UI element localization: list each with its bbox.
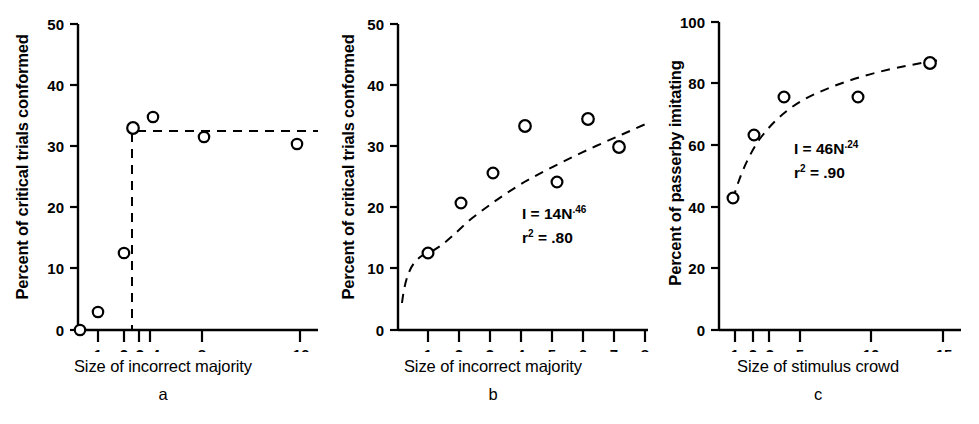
panel-a-point-6	[292, 139, 302, 149]
panel-a-xtick-4: 4	[152, 346, 161, 352]
panel-b-ytick-40: 40	[367, 77, 384, 94]
panel-c: Percent of passerby imitating 100 80 60 …	[653, 0, 979, 424]
panel-c-xtick-15: 15	[936, 346, 953, 352]
panel-b-y-ticklabels: 50 40 30 20 10 0	[367, 16, 384, 339]
panel-b: Percent of critical trials conformed 50 …	[326, 0, 652, 424]
panel-a-xtick-1: 1	[94, 346, 102, 352]
panel-a-xtick-16: 16	[293, 346, 310, 352]
panel-c-y-ticks	[711, 22, 719, 330]
panel-b-xtick-7: 7	[610, 346, 618, 352]
panel-c-xtick-5: 5	[796, 346, 804, 352]
panel-a-point-2	[119, 248, 129, 258]
panel-a-ytick-30: 30	[47, 138, 64, 155]
panel-c-point-3	[779, 92, 790, 103]
panel-b-letter: b	[330, 385, 656, 404]
panel-b-ytick-30: 30	[367, 138, 384, 155]
panel-a: Percent of critical trials conformed 50 …	[0, 0, 326, 424]
panel-b-ytick-0: 0	[376, 322, 384, 339]
panel-b-xtick-3: 3	[486, 346, 494, 352]
panel-c-point-2	[749, 130, 760, 141]
panel-a-ytick-0: 0	[56, 322, 64, 339]
panel-a-ytick-40: 40	[47, 77, 64, 94]
panel-a-xtick-8: 8	[198, 346, 206, 352]
panel-b-ytick-50: 50	[367, 16, 384, 33]
panel-c-letter: c	[655, 385, 979, 404]
panel-c-r-squared: r2 = .90	[794, 163, 845, 181]
panel-b-y-ticks	[390, 24, 398, 330]
panel-b-ytick-10: 10	[367, 260, 384, 277]
panel-c-xtick-10: 10	[863, 346, 880, 352]
panel-b-point-1	[423, 248, 434, 259]
panel-a-x-ticklabels: 1 2 3 4 8 16	[94, 346, 310, 352]
panel-b-point-7	[613, 141, 625, 153]
panel-c-xtick-3: 3	[766, 346, 774, 352]
panel-b-x-axis-label: Size of incorrect majority	[330, 357, 656, 376]
panel-a-point-4	[148, 112, 158, 122]
panel-c-xtick-1: 1	[731, 346, 739, 352]
panel-b-xtick-2: 2	[455, 346, 463, 352]
panel-c-point-10	[853, 92, 864, 103]
panel-b-xtick-4: 4	[517, 346, 526, 352]
panel-c-data-points	[728, 57, 936, 203]
panel-b-x-ticks	[428, 330, 645, 342]
panel-b-x-ticklabels: 1 2 3 4 5 6 7 8	[424, 346, 649, 352]
panel-c-point-15	[924, 57, 936, 69]
panel-b-plot: 50 40 30 20 10 0 1 2 3 4	[326, 0, 652, 352]
panel-b-point-3	[488, 168, 499, 179]
panel-a-step-fit-line	[80, 131, 318, 330]
panel-a-ytick-20: 20	[47, 199, 64, 216]
panel-b-xtick-1: 1	[424, 346, 432, 352]
panel-a-y-ticklabels: 50 40 30 20 10 0	[47, 16, 64, 339]
panel-b-r-squared: r2 = .80	[522, 228, 573, 246]
panel-c-equation: I = 46N.24	[794, 139, 859, 157]
panel-c-xtick-2: 2	[749, 346, 757, 352]
panel-c-ytick-40: 40	[688, 199, 705, 216]
panel-b-xtick-8: 8	[641, 346, 649, 352]
panel-a-point-5	[199, 132, 209, 142]
panel-a-letter: a	[0, 385, 326, 404]
panel-c-plot: 100 80 60 40 20 0 1 2 3 5 10	[653, 0, 979, 352]
panel-b-point-2	[456, 198, 467, 209]
panel-a-ytick-10: 10	[47, 260, 64, 277]
panel-b-point-5	[552, 177, 563, 188]
panel-c-ytick-80: 80	[688, 75, 705, 92]
panel-b-xtick-6: 6	[579, 346, 587, 352]
panel-c-ytick-60: 60	[688, 137, 705, 154]
three-panel-figure: Percent of critical trials conformed 50 …	[0, 0, 979, 424]
panel-a-data-points	[75, 112, 302, 335]
panel-c-y-ticklabels: 100 80 60 40 20 0	[680, 14, 705, 339]
panel-a-plot: 50 40 30 20 10 0 1 2 3 4 8	[0, 0, 326, 352]
panel-a-x-ticks	[98, 330, 300, 342]
panel-c-ytick-100: 100	[680, 14, 705, 31]
panel-b-equation: I = 14N.46	[522, 204, 587, 222]
panel-b-point-6	[582, 113, 594, 125]
panel-b-point-4	[519, 120, 531, 132]
panel-a-x-axis-label: Size of incorrect majority	[0, 357, 326, 376]
panel-a-xtick-2: 2	[120, 346, 128, 352]
panel-a-point-3	[127, 122, 139, 134]
panel-a-point-0	[75, 325, 85, 335]
panel-c-x-ticks	[735, 330, 943, 342]
panel-c-ytick-0: 0	[697, 322, 705, 339]
panel-a-xtick-3: 3	[136, 346, 144, 352]
panel-b-xtick-5: 5	[548, 346, 556, 352]
panel-a-ytick-50: 50	[47, 16, 64, 33]
panel-c-x-ticklabels: 1 2 3 5 10 15	[731, 346, 953, 352]
panel-c-ytick-20: 20	[688, 260, 705, 277]
panel-c-point-1	[728, 193, 739, 204]
panel-b-ytick-20: 20	[367, 199, 384, 216]
panel-a-point-1	[93, 307, 103, 317]
panel-c-x-axis-label: Size of stimulus crowd	[655, 357, 979, 376]
